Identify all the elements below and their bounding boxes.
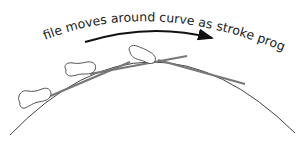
file-position-2 <box>65 56 187 76</box>
file-stroke-diagram: file moves around curve as stroke progre… <box>0 0 303 146</box>
file-blade <box>158 60 245 84</box>
direction-arrow-icon <box>85 31 212 42</box>
file-position-3 <box>129 45 245 84</box>
file-handle-icon <box>129 45 155 63</box>
caption-text: file moves around curve as stroke progre… <box>0 0 288 54</box>
file-handle-icon <box>19 88 51 108</box>
workpiece-curve <box>10 62 295 135</box>
